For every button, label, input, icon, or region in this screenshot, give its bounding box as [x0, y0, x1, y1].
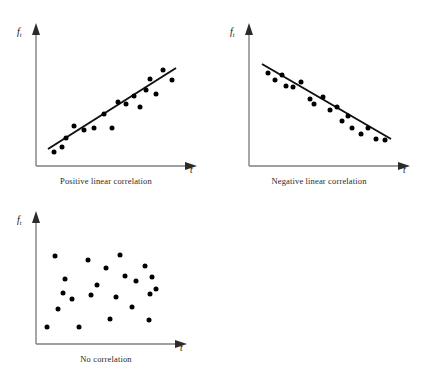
data-point: [102, 112, 107, 117]
data-point: [52, 150, 57, 155]
data-point: [45, 325, 50, 330]
data-point: [116, 100, 121, 105]
data-point: [56, 307, 61, 312]
data-point: [104, 266, 109, 271]
data-point: [150, 275, 155, 280]
data-point: [284, 84, 289, 89]
panel-caption-negative: Negative linear correlation: [213, 176, 425, 186]
scatter-plot-negative: [213, 6, 425, 174]
data-point: [312, 102, 317, 107]
y-axis-label-subscript: t: [20, 219, 22, 226]
data-point: [383, 138, 388, 143]
data-point: [108, 317, 113, 322]
data-point: [346, 114, 351, 119]
data-point: [359, 132, 364, 137]
data-point-group: [266, 71, 388, 143]
data-point: [340, 119, 345, 124]
data-point: [89, 293, 94, 298]
y-axis-label-subscript: t: [20, 31, 22, 38]
x-axis-label: t: [403, 165, 406, 175]
data-point: [53, 254, 58, 259]
panel-caption-positive: Positive linear correlation: [0, 176, 212, 186]
data-point: [118, 253, 123, 258]
data-point: [335, 105, 340, 110]
data-point: [124, 102, 129, 107]
data-point: [60, 145, 65, 150]
y-axis-arrow-icon: [32, 23, 40, 35]
data-point: [92, 126, 97, 131]
data-point: [82, 128, 87, 133]
data-point: [95, 283, 100, 288]
data-point: [110, 126, 115, 131]
data-point: [130, 305, 135, 310]
data-point: [143, 264, 148, 269]
data-point: [61, 291, 66, 296]
data-point: [132, 94, 137, 99]
data-point: [70, 297, 75, 302]
x-axis-label: t: [180, 343, 183, 353]
panel-negative-correlation: ft t Negative linear correlation: [213, 6, 425, 188]
data-point: [280, 73, 285, 78]
data-point: [154, 92, 159, 97]
data-point: [273, 78, 278, 83]
data-point: [63, 277, 68, 282]
data-point: [64, 136, 69, 141]
data-point: [299, 80, 304, 85]
data-point: [86, 258, 91, 263]
data-point: [161, 68, 166, 73]
data-point: [170, 78, 175, 83]
data-point: [114, 295, 119, 300]
data-point: [144, 88, 149, 93]
panel-caption-none: No correlation: [0, 354, 212, 364]
data-point: [138, 105, 143, 110]
y-axis-arrow-icon: [32, 211, 40, 223]
scatter-plot-positive: [0, 6, 212, 174]
data-point: [134, 279, 139, 284]
data-point: [374, 137, 379, 142]
data-point: [123, 274, 128, 279]
data-point: [154, 287, 159, 292]
x-axis-label: t: [190, 165, 193, 175]
y-axis-arrow-icon: [245, 23, 253, 35]
data-point: [291, 85, 296, 90]
y-axis-label: ft: [230, 26, 235, 38]
scatter-plot-none: [0, 196, 212, 356]
y-axis-label: ft: [17, 214, 22, 226]
y-axis-label-subscript: t: [233, 31, 235, 38]
panel-no-correlation: ft t No correlation: [0, 196, 212, 371]
data-point: [328, 108, 333, 113]
panel-positive-correlation: ft t Positive linear correlation: [0, 6, 212, 188]
data-point: [266, 71, 271, 76]
data-point: [350, 126, 355, 131]
data-point: [321, 95, 326, 100]
data-point: [366, 126, 371, 131]
y-axis-label: ft: [17, 26, 22, 38]
data-point: [308, 97, 313, 102]
data-point: [72, 124, 77, 129]
data-point: [148, 77, 153, 82]
data-point: [148, 292, 153, 297]
data-point: [147, 318, 152, 323]
data-point-group: [45, 253, 159, 330]
data-point: [77, 325, 82, 330]
